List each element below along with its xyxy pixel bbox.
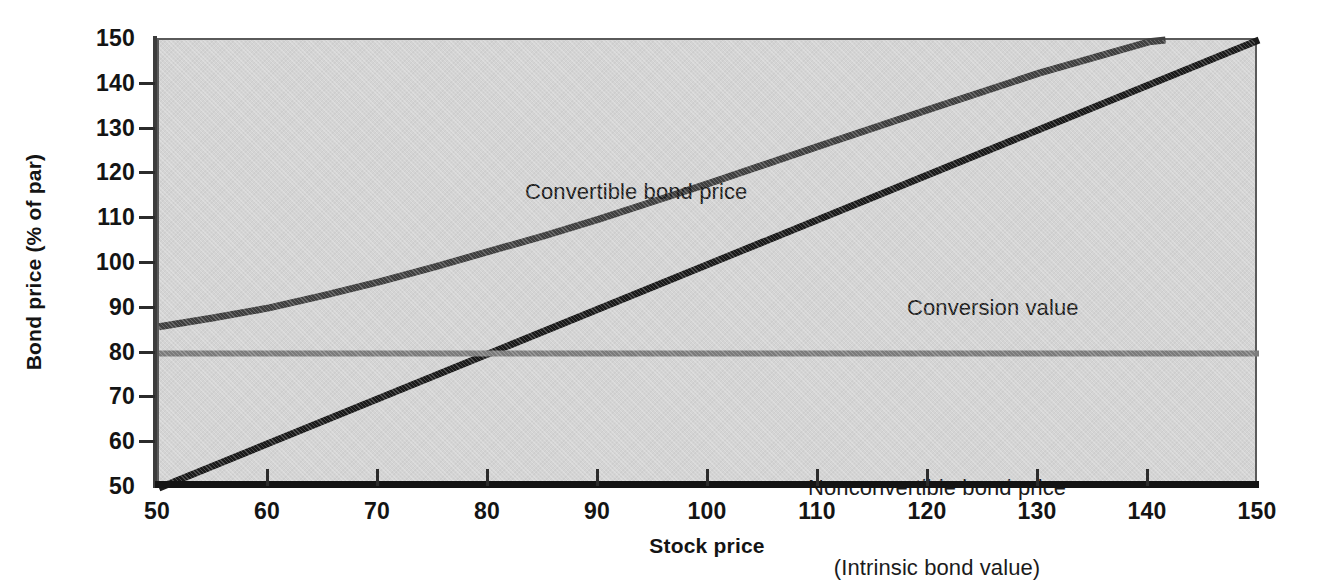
x-tick-mark-110 (816, 469, 819, 486)
x-tick-mark-60 (266, 469, 269, 486)
x-tick-mark-70 (376, 469, 379, 486)
y-tick-label-140: 140 (79, 71, 135, 94)
annotation-conversion-value: Conversion value (907, 295, 1079, 322)
y-tick-mark-60 (139, 440, 155, 443)
x-tick-label-150: 150 (1212, 500, 1302, 523)
x-tick-label-110: 110 (772, 500, 862, 523)
y-tick-label-110: 110 (79, 206, 135, 229)
x-tick-label-130: 130 (992, 500, 1082, 523)
y-tick-mark-130 (139, 127, 155, 130)
x-tick-mark-120 (926, 469, 929, 486)
y-tick-mark-70 (139, 395, 155, 398)
x-tick-label-50: 50 (112, 500, 202, 523)
y-tick-label-70: 70 (79, 385, 135, 408)
x-tick-mark-80 (486, 469, 489, 486)
plot-area: Convertible bond price Conversion value … (157, 38, 1257, 486)
series-line-1 (159, 40, 1259, 488)
plot-lines (159, 40, 1259, 488)
y-tick-mark-80 (139, 351, 155, 354)
y-tick-label-50: 50 (79, 475, 135, 498)
x-axis-title: Stock price (157, 534, 1257, 558)
x-tick-label-70: 70 (332, 500, 422, 523)
x-tick-mark-140 (1146, 469, 1149, 486)
y-tick-label-130: 130 (79, 116, 135, 139)
annotation-nonconvertible-line2: (Intrinsic bond value) (808, 555, 1066, 582)
y-tick-mark-90 (139, 306, 155, 309)
x-tick-label-100: 100 (662, 500, 752, 523)
y-tick-label-150: 150 (79, 27, 135, 50)
y-tick-mark-100 (139, 261, 155, 264)
x-tick-mark-90 (596, 469, 599, 486)
y-tick-label-120: 120 (79, 161, 135, 184)
x-tick-mark-130 (1036, 469, 1039, 486)
y-tick-mark-120 (139, 171, 155, 174)
y-tick-label-100: 100 (79, 251, 135, 274)
x-tick-mark-100 (706, 469, 709, 486)
y-tick-label-80: 80 (79, 340, 135, 363)
y-tick-mark-110 (139, 216, 155, 219)
x-tick-label-120: 120 (882, 500, 972, 523)
x-tick-label-80: 80 (442, 500, 532, 523)
annotation-convertible-bond-price: Convertible bond price (525, 179, 747, 206)
y-tick-label-60: 60 (79, 430, 135, 453)
x-tick-label-60: 60 (222, 500, 312, 523)
y-tick-label-90: 90 (79, 295, 135, 318)
y-tick-mark-140 (139, 82, 155, 85)
x-tick-label-90: 90 (552, 500, 642, 523)
y-axis-title: Bond price (% of par) (22, 38, 56, 486)
x-tick-label-140: 140 (1102, 500, 1192, 523)
